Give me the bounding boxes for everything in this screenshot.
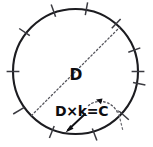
tick-mark	[85, 2, 87, 15]
tick-mark	[133, 83, 145, 86]
tick-mark	[51, 4, 55, 16]
formula-label: D×k=C	[55, 103, 108, 119]
diagram-canvas: D D×k=C	[0, 0, 153, 147]
diameter-label: D	[70, 66, 83, 84]
circle-diagram-figure: D D×k=C	[0, 0, 153, 147]
tick-mark	[13, 107, 24, 114]
